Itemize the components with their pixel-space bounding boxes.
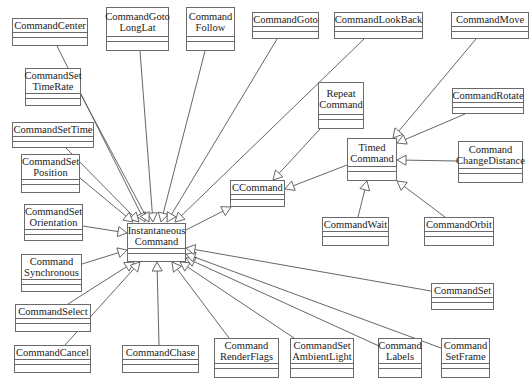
class-box-command-set-time[interactable]: CommandSetTime: [12, 122, 94, 148]
class-name: Repeat Command: [319, 83, 363, 115]
class-name: CommandCancel: [15, 346, 90, 360]
generalization-CommandSetAmbientLight-to-InstantaneousCommand: [180, 262, 294, 338]
class-box-instantaneous-command[interactable]: Instantaneous Command: [127, 223, 186, 262]
generalization-CommandFollow-to-InstantaneousCommand: [158, 51, 205, 222]
class-box-command-cancel[interactable]: CommandCancel: [14, 345, 91, 373]
operations-compartment: [379, 369, 421, 377]
class-name: Command Follow: [187, 8, 234, 37]
inheritance-arrowhead-icon: [117, 227, 127, 237]
operations-compartment: [432, 303, 493, 311]
generalization-CommandSetPosition-to-InstantaneousCommand: [80, 178, 133, 222]
class-name: CommandLookBack: [335, 13, 422, 27]
inheritance-arrowhead-icon: [360, 181, 370, 191]
generalization-CommandWait-to-TimedCommand: [358, 181, 370, 217]
generalization-CommandSetOrientation-to-InstantaneousCommand: [83, 226, 127, 237]
inheritance-line: [406, 160, 458, 161]
operations-compartment: [15, 365, 90, 373]
inheritance-arrowhead-icon: [393, 128, 403, 138]
class-box-command-render-flags[interactable]: Command RenderFlags: [214, 338, 279, 378]
operations-compartment: [22, 185, 79, 193]
inheritance-line: [279, 129, 320, 173]
class-box-command-chase[interactable]: CommandChase: [122, 345, 199, 373]
class-name: CommandChase: [123, 346, 198, 360]
inheritance-line: [187, 267, 294, 338]
operations-compartment: [13, 142, 93, 150]
class-name: CommandSelect: [16, 305, 90, 319]
generalization-CommandSynchronous-to-InstantaneousCommand: [82, 248, 127, 264]
inheritance-line: [82, 253, 118, 264]
class-name: Command Labels: [379, 339, 421, 364]
inheritance-line: [163, 51, 205, 213]
class-box-command-orbit[interactable]: CommandOrbit: [424, 217, 494, 246]
class-box-command-goto-long-lat[interactable]: CommandGoto LongLat: [106, 7, 169, 51]
class-box-command-select[interactable]: CommandSelect: [15, 304, 91, 332]
class-box-command-set-frame[interactable]: Command SetFrame: [441, 338, 490, 378]
operations-compartment: [22, 285, 81, 293]
class-name: CommandCenter: [13, 19, 87, 33]
inheritance-arrowhead-icon: [152, 262, 162, 271]
inheritance-line: [83, 226, 118, 232]
operations-compartment: [425, 237, 493, 245]
class-box-command-set[interactable]: CommandSet: [431, 283, 494, 310]
class-name: CommandSet Position: [22, 155, 79, 180]
class-box-command-look-back[interactable]: CommandLookBack: [334, 12, 423, 39]
inheritance-line: [80, 178, 126, 216]
class-box-command-wait[interactable]: CommandWait: [322, 217, 389, 246]
class-box-command-center[interactable]: CommandCenter: [12, 18, 88, 46]
inheritance-arrowhead-icon: [117, 248, 127, 258]
inheritance-arrowhead-icon: [397, 155, 406, 165]
inheritance-line: [186, 211, 223, 230]
operations-compartment: [123, 365, 198, 373]
operations-compartment: [453, 108, 523, 116]
operations-compartment: [291, 369, 353, 377]
class-box-command-rotate[interactable]: CommandRotate: [452, 88, 524, 114]
class-box-command-set-time-rate[interactable]: CommandSet TimeRate: [25, 68, 81, 106]
class-box-command-labels[interactable]: Command Labels: [378, 338, 422, 378]
class-box-command-goto[interactable]: CommandGoto: [252, 12, 319, 39]
class-box-command-move[interactable]: CommandMove: [451, 12, 529, 39]
inheritance-line: [157, 271, 159, 345]
class-box-command-follow[interactable]: Command Follow: [186, 7, 235, 51]
class-name: Timed Command: [348, 139, 396, 167]
class-box-timed-command[interactable]: Timed Command: [347, 138, 397, 181]
inheritance-line: [293, 165, 347, 186]
class-name: CommandWait: [323, 218, 388, 232]
class-name: CommandSet AmbientLight: [291, 339, 353, 364]
class-name: CommandRotate: [453, 89, 523, 103]
class-box-command-change-distance[interactable]: Command ChangeDistance: [458, 141, 523, 183]
inheritance-line: [140, 51, 152, 213]
class-name: CommandGoto: [253, 13, 318, 27]
operations-compartment: [13, 38, 87, 46]
class-name: Command ChangeDistance: [459, 142, 522, 169]
class-box-command-synchronous[interactable]: Command Synchronous: [21, 254, 82, 292]
inheritance-line: [358, 190, 365, 217]
inheritance-line: [404, 186, 445, 217]
inheritance-line: [80, 93, 145, 214]
inheritance-line: [405, 114, 465, 139]
inheritance-line: [177, 269, 229, 338]
operations-compartment: [348, 172, 396, 180]
generalization-CommandSetTimeRate-to-InstantaneousCommand: [80, 93, 149, 222]
class-box-command-set-position[interactable]: CommandSet Position: [21, 154, 80, 193]
class-name: CommandSet Orientation: [25, 205, 82, 230]
class-name: CommandSet TimeRate: [26, 69, 80, 94]
generalization-CommandLabels-to-InstantaneousCommand: [186, 257, 379, 346]
operations-compartment: [253, 32, 318, 40]
class-box-command-set-orientation[interactable]: CommandSet Orientation: [24, 204, 83, 241]
operations-compartment: [442, 369, 489, 377]
operations-compartment: [187, 42, 234, 50]
operations-compartment: [215, 369, 278, 377]
class-name: CCommand: [231, 181, 284, 195]
operations-compartment: [107, 42, 168, 50]
generalization-CommandGotoLongLat-to-InstantaneousCommand: [140, 51, 157, 222]
class-box-repeat-command[interactable]: Repeat Command: [318, 82, 364, 129]
generalization-TimedCommand-to-CCommand: [285, 165, 347, 190]
inheritance-arrowhead-icon: [172, 262, 181, 272]
inheritance-arrowhead-icon: [397, 181, 407, 190]
operations-compartment: [319, 120, 363, 128]
inheritance-line: [399, 39, 476, 131]
class-box-ccommand[interactable]: CCommand: [230, 180, 285, 207]
class-box-command-set-ambient-light[interactable]: CommandSet AmbientLight: [290, 338, 354, 378]
class-name: Instantaneous Command: [128, 224, 185, 249]
class-name: CommandSetTime: [13, 123, 93, 137]
